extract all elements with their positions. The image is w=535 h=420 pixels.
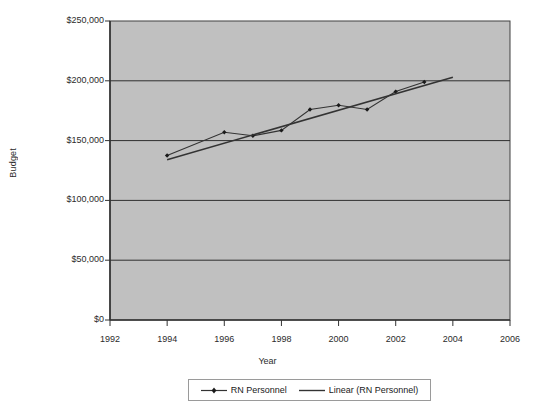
chart-legend: RN Personnel Linear (RN Personnel) (188, 379, 431, 401)
legend-label: Linear (RN Personnel) (329, 385, 419, 395)
legend-item-linear-rn-personnel: Linear (RN Personnel) (299, 385, 419, 395)
chart-container: Budget Year $0$50,000$100,000$150,000$20… (0, 0, 535, 420)
plot-area (0, 0, 535, 420)
plot-background (110, 21, 510, 320)
legend-marker-line-diamond-icon (201, 386, 227, 395)
legend-item-rn-personnel: RN Personnel (201, 385, 287, 395)
legend-label: RN Personnel (231, 385, 287, 395)
legend-marker-line-icon (299, 386, 325, 395)
